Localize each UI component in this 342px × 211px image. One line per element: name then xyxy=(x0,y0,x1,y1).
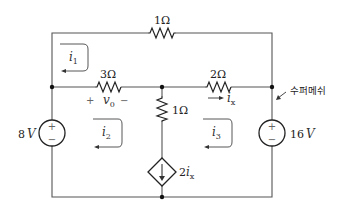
mesh-current-i1: i1 xyxy=(60,44,88,73)
voltage-source-16v: + − xyxy=(259,120,285,146)
node-bottom xyxy=(160,195,164,199)
circuit-diagram: + − + − 1Ω 3Ω 2Ω 1Ω 8V 16V 2ix + v0 − ix xyxy=(0,0,342,211)
node-left xyxy=(50,85,54,89)
node-center xyxy=(160,85,164,89)
label-r-top: 1Ω xyxy=(154,14,170,27)
label-r-left: 3Ω xyxy=(100,68,116,81)
v0-plus-sign: + xyxy=(86,95,94,106)
v0-minus-sign: − xyxy=(120,95,128,106)
mesh-current-i3: i3 xyxy=(203,119,232,149)
label-r-mid: 1Ω xyxy=(172,104,188,117)
source-minus-sign: − xyxy=(268,134,276,145)
node-right xyxy=(270,85,274,89)
source-plus-sign: + xyxy=(268,121,276,132)
resistor-top-1ohm xyxy=(148,28,176,38)
label-16v: 16V xyxy=(290,127,316,141)
label-8v: 8V xyxy=(18,127,37,141)
arrow-left-icon xyxy=(61,69,66,73)
dependent-current-source xyxy=(148,158,176,186)
source-minus-sign: − xyxy=(48,134,56,145)
svg-text:i3: i3 xyxy=(212,125,221,141)
arrow-pointer-icon xyxy=(276,95,281,100)
label-dependent-source: 2ix xyxy=(179,165,195,181)
voltage-source-8v: + − xyxy=(39,120,65,146)
label-supermesh: 수퍼메쉬 xyxy=(290,85,326,96)
ix-arrow xyxy=(208,96,224,100)
arrow-left-icon xyxy=(94,145,99,149)
label-ix: ix xyxy=(227,91,236,107)
label-v0: v0 xyxy=(103,93,115,109)
resistor-mid-1ohm xyxy=(157,96,167,122)
label-r-right: 2Ω xyxy=(210,68,226,81)
svg-text:i1: i1 xyxy=(69,50,78,66)
arrow-right-icon xyxy=(219,96,224,100)
supermesh-annotation: 수퍼메쉬 xyxy=(276,85,326,100)
svg-text:i2: i2 xyxy=(102,125,111,141)
mesh-current-i2: i2 xyxy=(93,119,122,149)
arrow-left-icon xyxy=(204,145,209,149)
source-plus-sign: + xyxy=(48,121,56,132)
resistor-left-3ohm xyxy=(95,82,121,92)
